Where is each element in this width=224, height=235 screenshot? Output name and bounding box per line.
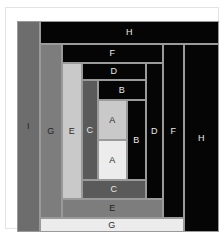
rect-label: H	[198, 134, 205, 143]
rect-label: H	[126, 28, 133, 37]
rect-H-top: H	[40, 21, 219, 44]
rect-A-upper: A	[98, 100, 127, 140]
rect-C-bottom: C	[82, 180, 146, 199]
rect-C-left: C	[82, 80, 98, 180]
rect-label: C	[87, 126, 94, 135]
rect-D-top: D	[82, 63, 146, 80]
rect-label: B	[133, 136, 139, 145]
rect-I-left: I	[17, 21, 40, 232]
rect-label: E	[69, 127, 75, 136]
rect-label: D	[111, 67, 118, 76]
rect-label: C	[111, 185, 118, 194]
rect-label: E	[109, 204, 115, 213]
rect-label: D	[151, 127, 158, 136]
rect-B-right: B	[127, 100, 146, 180]
rect-label: A	[109, 156, 115, 165]
rect-E-bottom: E	[62, 199, 163, 218]
diagram-canvas: IHHGGFFEEDDCCBBAA	[17, 21, 219, 232]
rect-label: G	[47, 127, 54, 136]
rect-G-bottom: G	[40, 218, 184, 232]
rect-B-top: B	[98, 80, 146, 100]
rect-H-right: H	[184, 44, 219, 232]
rect-label: F	[110, 49, 116, 58]
rect-D-right: D	[146, 63, 163, 199]
rect-label: G	[108, 221, 115, 230]
page-frame: IHHGGFFEEDDCCBBAA	[5, 7, 219, 229]
rect-E-left: E	[62, 63, 82, 199]
rect-label: F	[171, 127, 177, 136]
rect-F-right: F	[163, 44, 184, 218]
rect-label: I	[27, 122, 30, 131]
rect-G-left: G	[40, 44, 62, 218]
rect-label: B	[119, 86, 125, 95]
rect-F-top: F	[62, 44, 163, 63]
diagram-stage: IHHGGFFEEDDCCBBAA	[0, 0, 224, 235]
rect-A-lower: A	[98, 140, 127, 180]
rect-label: A	[109, 116, 115, 125]
